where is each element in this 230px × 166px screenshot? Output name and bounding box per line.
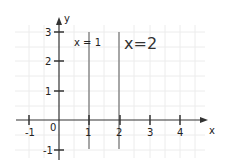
x-axis-arrow-icon	[200, 117, 208, 123]
x-axis-label: x	[209, 125, 215, 136]
grid	[15, 25, 205, 158]
y-tick-label: 2	[45, 56, 51, 67]
line-label-x-equals-1: x = 1	[74, 37, 101, 48]
y-axis-label: y	[64, 13, 70, 24]
coordinate-plane: y x -1 0 1 2 3 4 3 2 1 -1 x = 1 x=2	[0, 0, 230, 166]
x-tick-label: -1	[25, 127, 35, 138]
y-axis-arrow-icon	[56, 17, 62, 25]
y-tick-label: -1	[43, 145, 53, 156]
x-tick-label: 0	[50, 122, 56, 133]
x-tick-label: 1	[85, 127, 91, 138]
y-tick-label: 1	[45, 86, 51, 97]
x-tick-label: 2	[116, 127, 122, 138]
line-label-x-equals-2: x=2	[124, 34, 157, 53]
y-tick-label: 3	[45, 27, 51, 38]
x-tick-label: 3	[147, 127, 153, 138]
x-tick-label: 4	[177, 127, 183, 138]
